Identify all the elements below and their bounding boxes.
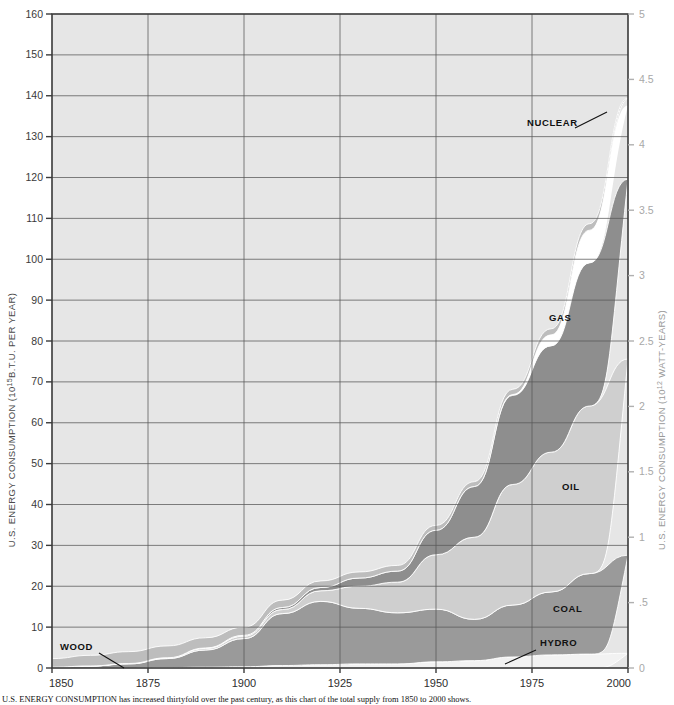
right-tick-label: 1.5 — [639, 465, 654, 477]
left-tick-label: 80 — [31, 335, 43, 347]
left-tick-label: 30 — [31, 539, 43, 551]
right-tick-label: 4 — [639, 138, 645, 150]
right-tick-label: 2.5 — [639, 335, 654, 347]
x-tick-label: 1850 — [49, 677, 73, 689]
left-tick-label: 130 — [25, 130, 43, 142]
series-label-gas: GAS — [549, 312, 571, 323]
left-tick-label: 60 — [31, 416, 43, 428]
series-label-nuclear: NUCLEAR — [527, 117, 578, 128]
right-tick-label: 5 — [639, 8, 645, 20]
x-tick-label: 1975 — [520, 677, 544, 689]
right-tick-label: 0 — [639, 662, 645, 674]
left-tick-label: 70 — [31, 375, 43, 387]
left-tick-label: 160 — [25, 8, 43, 20]
left-tick-label: 100 — [25, 253, 43, 265]
right-tick-label: 4.5 — [639, 73, 654, 85]
left-tick-label: 10 — [31, 621, 43, 633]
left-tick-label: 90 — [31, 294, 43, 306]
left-tick-label: 50 — [31, 457, 43, 469]
series-label-oil: OIL — [562, 481, 580, 492]
left-tick-label: 150 — [25, 48, 43, 60]
right-axis-title: U.S. ENERGY CONSUMPTION (1012 WATT-YEARS… — [656, 310, 668, 550]
left-tick-label: 20 — [31, 580, 43, 592]
bottom-axis-ticks: 1850187519001925195019752000 — [49, 668, 631, 689]
series-label-wood: WOOD — [60, 641, 93, 652]
energy-consumption-area-chart: 0102030405060708090100110120130140150160… — [0, 0, 674, 690]
x-tick-label: 1875 — [136, 677, 160, 689]
series-label-hydro: HYDRO — [540, 637, 577, 648]
left-tick-label: 120 — [25, 171, 43, 183]
right-tick-label: 1 — [639, 531, 645, 543]
x-tick-label: 1925 — [328, 677, 352, 689]
figure-root: 0102030405060708090100110120130140150160… — [0, 0, 674, 705]
left-tick-label: 40 — [31, 498, 43, 510]
left-tick-label: 0 — [37, 662, 43, 674]
left-tick-label: 140 — [25, 89, 43, 101]
right-tick-label: .5 — [639, 596, 648, 608]
left-axis-ticks: 0102030405060708090100110120130140150160 — [25, 8, 52, 674]
right-tick-label: 3.5 — [639, 204, 654, 216]
left-tick-label: 110 — [26, 212, 43, 224]
right-tick-label: 3 — [639, 269, 645, 281]
right-axis-ticks: 0.511.522.533.544.55 — [628, 8, 654, 674]
x-tick-label: 2000 — [607, 677, 631, 689]
series-label-coal: COAL — [553, 603, 582, 614]
left-axis-title: U.S. ENERGY CONSUMPTION (1015B.T.U. PER … — [6, 293, 18, 547]
figure-caption: U.S. ENERGY CONSUMPTION has increased th… — [2, 694, 672, 705]
x-tick-label: 1950 — [424, 677, 448, 689]
right-tick-label: 2 — [639, 400, 645, 412]
x-tick-label: 1900 — [232, 677, 256, 689]
